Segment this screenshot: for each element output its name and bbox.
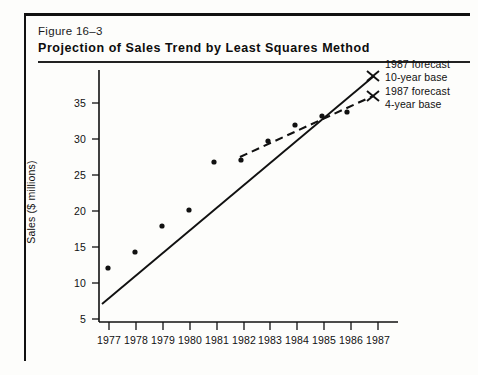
forecast-marker-4-year bbox=[367, 91, 379, 101]
x-axis-ticks bbox=[109, 322, 378, 330]
annotation-line-2: 10-year base bbox=[385, 71, 450, 84]
y-tick-label: 15 bbox=[60, 241, 86, 253]
annotation-line-1: 1987 forecast bbox=[385, 58, 450, 71]
forecast-marker-10-year bbox=[367, 71, 379, 81]
x-tick-label: 1984 bbox=[282, 334, 312, 346]
x-tick-label: 1981 bbox=[202, 334, 232, 346]
trend-line-10-year-base bbox=[102, 76, 374, 304]
y-tick-label: 25 bbox=[60, 169, 86, 181]
data-point bbox=[238, 157, 243, 162]
data-point bbox=[159, 223, 164, 228]
data-point bbox=[211, 159, 216, 164]
y-tick-label: 10 bbox=[60, 277, 86, 289]
y-tick-label: 35 bbox=[60, 97, 86, 109]
y-tick-label: 20 bbox=[60, 205, 86, 217]
data-point bbox=[344, 109, 349, 114]
x-tick-label: 1980 bbox=[175, 334, 205, 346]
x-tick-label: 1978 bbox=[121, 334, 151, 346]
trend-line-4-year-base bbox=[240, 96, 373, 157]
x-tick-label: 1977 bbox=[94, 334, 124, 346]
x-tick-label: 1987 bbox=[363, 334, 393, 346]
y-tick-label: 5 bbox=[60, 313, 86, 325]
data-point bbox=[292, 122, 297, 127]
x-tick-label: 1985 bbox=[309, 334, 339, 346]
x-tick-label: 1979 bbox=[148, 334, 178, 346]
data-point bbox=[319, 113, 324, 118]
y-axis-title: Sales ($ millions) bbox=[25, 152, 37, 252]
annotation-line-2: 4-year base bbox=[385, 98, 450, 111]
data-point bbox=[132, 249, 137, 254]
annotation-forecast-4-year: 1987 forecast 4-year base bbox=[385, 85, 450, 110]
data-point-group bbox=[105, 109, 349, 270]
annotation-forecast-10-year: 1987 forecast 10-year base bbox=[385, 58, 450, 83]
annotation-line-1: 1987 forecast bbox=[385, 85, 450, 98]
y-axis-ticks bbox=[92, 103, 99, 319]
y-tick-label: 30 bbox=[60, 133, 86, 145]
data-point bbox=[105, 265, 110, 270]
data-point bbox=[186, 207, 191, 212]
figure-container: Figure 16–3 Projection of Sales Trend by… bbox=[0, 0, 478, 375]
data-point bbox=[265, 138, 270, 143]
x-tick-label: 1983 bbox=[255, 334, 285, 346]
x-tick-label: 1986 bbox=[336, 334, 366, 346]
